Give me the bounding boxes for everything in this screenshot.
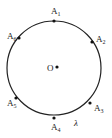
point-a6 xyxy=(17,36,20,39)
point-label-a4: A4 xyxy=(51,122,61,133)
center-label: O xyxy=(47,63,54,73)
circle-diagram: A1A2A3A4A5A6 O λ xyxy=(0,0,112,138)
point-label-a5: A5 xyxy=(7,98,17,109)
point-a4 xyxy=(52,116,55,119)
center-point xyxy=(55,65,58,68)
point-a3 xyxy=(88,101,91,104)
point-label-a6: A6 xyxy=(7,31,17,42)
circle xyxy=(7,21,101,115)
point-label-a2: A2 xyxy=(96,34,106,45)
arc-label-lambda: λ xyxy=(73,118,78,128)
point-a5 xyxy=(14,96,17,99)
point-label-a1: A1 xyxy=(51,6,61,17)
point-a1 xyxy=(52,19,55,22)
point-label-a3: A3 xyxy=(94,103,104,114)
point-a2 xyxy=(90,40,93,43)
